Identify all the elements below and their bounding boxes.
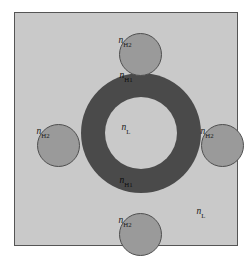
label-subscript: L xyxy=(201,213,205,220)
label-subscript: H2 xyxy=(123,42,131,49)
label-core: nL xyxy=(122,123,131,133)
label-ring-bottom: nH1 xyxy=(119,176,132,186)
figure-canvas: nH1 nH1 nL nH2 nH2 nH2 nH2 nL xyxy=(0,0,251,259)
label-subscript: H2 xyxy=(123,222,131,229)
label-subscript: H1 xyxy=(124,182,132,189)
label-subscript: H1 xyxy=(124,77,132,84)
low-index-core xyxy=(105,97,177,169)
label-satellite-right: nH2 xyxy=(200,127,213,137)
label-satellite-top: nH2 xyxy=(118,36,131,46)
label-ring-top: nH1 xyxy=(119,71,132,81)
label-satellite-bottom: nH2 xyxy=(118,216,131,226)
label-subscript: H2 xyxy=(205,133,213,140)
label-subscript: H2 xyxy=(41,133,49,140)
label-subscript: L xyxy=(126,129,130,136)
label-satellite-left: nH2 xyxy=(36,127,49,137)
label-substrate: nL xyxy=(197,207,206,217)
